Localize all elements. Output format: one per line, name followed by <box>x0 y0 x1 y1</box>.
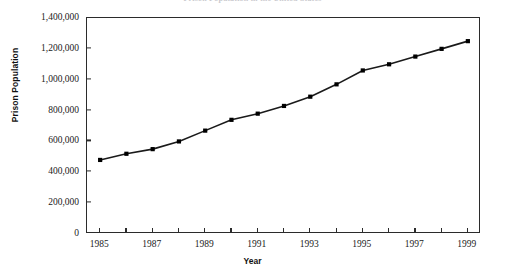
x-tick-mark <box>125 228 126 233</box>
data-point-marker <box>413 54 417 58</box>
data-point-marker <box>308 95 312 99</box>
x-tick-mark <box>309 228 310 233</box>
data-point-marker <box>124 152 128 156</box>
data-point-marker <box>203 129 207 133</box>
data-point-marker <box>98 158 102 162</box>
y-tick-label: 0 <box>0 228 86 238</box>
x-tick-mark <box>204 228 205 233</box>
x-axis-title: Year <box>0 256 505 266</box>
x-tick-label: 1987 <box>142 239 161 249</box>
y-tick-mark <box>86 109 91 110</box>
plot-area <box>86 17 480 233</box>
data-point-marker <box>151 147 155 151</box>
y-axis-title: Prison Population <box>10 40 20 130</box>
x-tick-mark <box>467 228 468 233</box>
y-tick-label: 200,000 <box>0 197 86 207</box>
y-tick-mark <box>86 140 91 141</box>
data-point-marker <box>177 139 181 143</box>
data-point-marker <box>229 118 233 122</box>
data-point-marker <box>440 47 444 51</box>
data-point-marker <box>282 104 286 108</box>
y-tick-label: 1,000,000 <box>0 74 86 84</box>
y-tick-mark <box>86 47 91 48</box>
data-point-marker <box>361 68 365 72</box>
x-tick-mark <box>283 228 284 233</box>
x-tick-label: 1985 <box>90 239 109 249</box>
x-tick-mark <box>230 228 231 233</box>
data-point-marker <box>334 82 338 86</box>
y-tick-label: 1,200,000 <box>0 43 86 53</box>
y-tick-mark <box>86 202 91 203</box>
x-tick-mark <box>178 228 179 233</box>
y-tick-label: 1,400,000 <box>0 12 86 22</box>
x-tick-mark <box>99 228 100 233</box>
data-series-line <box>100 41 468 160</box>
y-tick-label: 800,000 <box>0 105 86 115</box>
data-point-marker <box>387 62 391 66</box>
y-tick-label: 400,000 <box>0 166 86 176</box>
x-tick-label: 1989 <box>195 239 214 249</box>
chart-figure: Prison Population in the United States P… <box>0 0 505 279</box>
x-tick-mark <box>414 228 415 233</box>
x-tick-label: 1995 <box>352 239 371 249</box>
x-tick-mark <box>388 228 389 233</box>
x-tick-mark <box>152 228 153 233</box>
data-point-marker <box>256 112 260 116</box>
data-point-markers <box>98 39 470 162</box>
x-tick-label: 1993 <box>300 239 319 249</box>
chart-title: Prison Population in the United States <box>0 0 505 3</box>
x-tick-label: 1997 <box>405 239 424 249</box>
y-tick-mark <box>86 78 91 79</box>
y-tick-label: 600,000 <box>0 135 86 145</box>
x-tick-label: 1991 <box>247 239 266 249</box>
data-line-layer <box>87 18 481 234</box>
x-tick-mark <box>362 228 363 233</box>
data-point-marker <box>466 39 470 43</box>
y-tick-mark <box>86 171 91 172</box>
x-tick-mark <box>441 228 442 233</box>
x-tick-mark <box>257 228 258 233</box>
x-tick-label: 1999 <box>457 239 476 249</box>
x-tick-mark <box>336 228 337 233</box>
